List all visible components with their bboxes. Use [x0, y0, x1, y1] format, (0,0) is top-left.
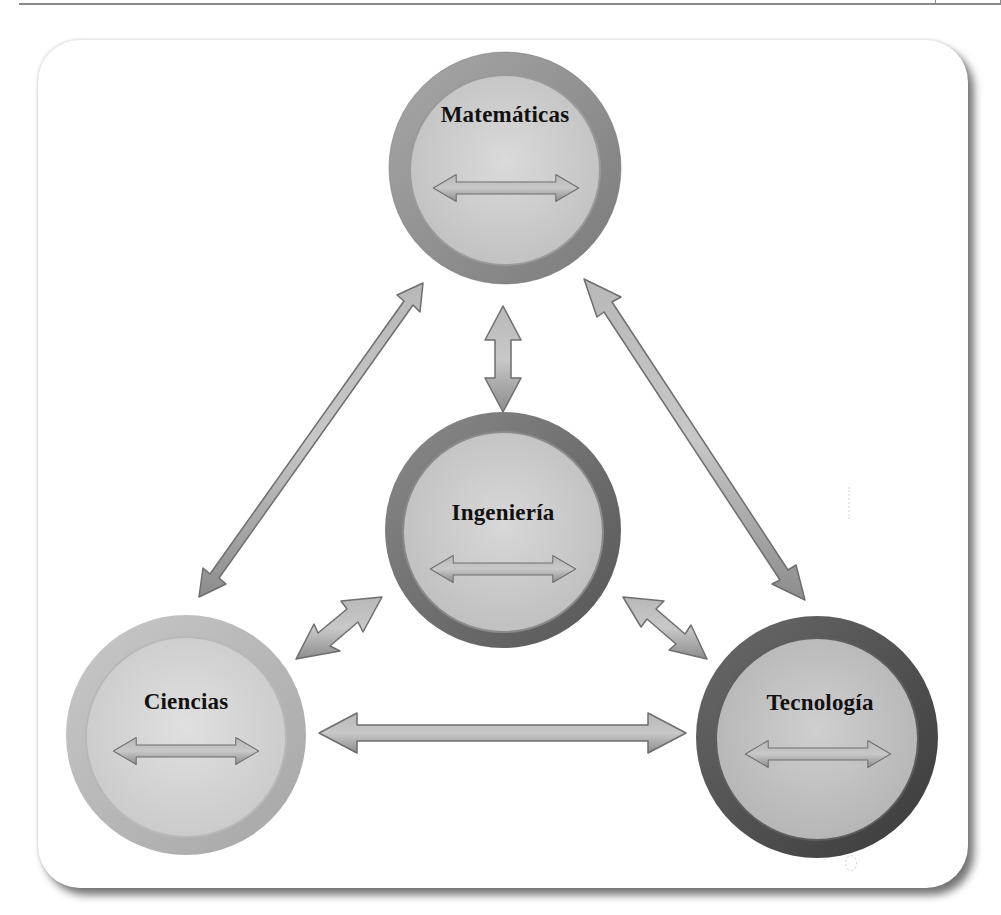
- node-ingenieria: [385, 412, 621, 648]
- stem-diagram: [0, 0, 1001, 915]
- scan-artifact-smudge: [845, 855, 857, 871]
- node-label-ciencias: Ciencias: [56, 689, 316, 715]
- arrow-ingenieria-ciencias: [296, 597, 382, 659]
- node-tecnologia: [696, 616, 938, 858]
- node-label-matematicas: Matemáticas: [375, 102, 635, 128]
- arrow-ingenieria-tecnologia: [623, 597, 707, 659]
- node-matematicas: [389, 52, 621, 284]
- arrow-ciencias-tecnologia: [319, 713, 686, 753]
- node-ciencias: [66, 615, 306, 855]
- node-label-tecnologia: Tecnología: [690, 690, 950, 716]
- scan-artifact: [848, 487, 864, 519]
- node-label-ingenieria: Ingeniería: [373, 500, 633, 526]
- arrow-matematicas-ingenieria: [485, 306, 521, 412]
